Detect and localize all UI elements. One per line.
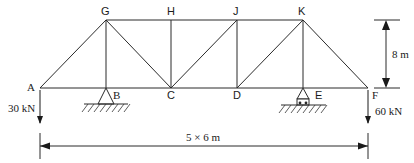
dim-arrow-up-icon — [382, 20, 390, 30]
ground-hatch-E — [279, 105, 327, 113]
height-dimension-label: 8 m — [392, 48, 409, 60]
joint-label-C: C — [167, 89, 175, 101]
joint-label-K: K — [298, 5, 306, 17]
span-dimension-label: 5 × 6 m — [186, 131, 220, 143]
joint-label-B: B — [113, 89, 120, 101]
pin-support-B — [82, 88, 130, 112]
joint-label-F: F — [372, 89, 378, 101]
member-AG — [40, 20, 106, 88]
member-KF — [303, 20, 368, 88]
member-DK — [237, 20, 303, 88]
truss-members — [40, 20, 368, 88]
joint-label-J: J — [233, 5, 239, 17]
dim-arrow-left-icon — [40, 143, 50, 150]
load-label-F: 60 kN — [375, 105, 402, 117]
member-CJ — [171, 20, 237, 88]
member-GC — [106, 20, 171, 88]
joint-label-D: D — [233, 89, 241, 101]
dim-arrow-down-icon — [382, 78, 390, 88]
dim-arrow-right-icon — [358, 143, 368, 150]
truss-diagram: A G H J K B C D E F — [0, 0, 414, 163]
joint-label-A: A — [27, 81, 35, 93]
joint-label-G: G — [101, 5, 110, 17]
joint-label-E: E — [315, 89, 322, 101]
joint-label-H: H — [167, 5, 175, 17]
ground-hatch-B — [82, 104, 130, 112]
load-label-A: 30 kN — [8, 102, 35, 114]
